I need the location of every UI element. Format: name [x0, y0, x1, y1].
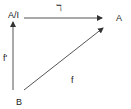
- label-left-arrow: f': [3, 53, 7, 63]
- node-target: A: [116, 13, 122, 23]
- node-source: B: [16, 97, 22, 107]
- arrow-diagonal: [24, 28, 103, 90]
- label-diagonal-arrow: f: [71, 75, 74, 85]
- diagram-canvas: [0, 0, 131, 109]
- label-top-arrow: ℸ: [56, 3, 62, 13]
- node-quotient: A/I: [8, 10, 19, 20]
